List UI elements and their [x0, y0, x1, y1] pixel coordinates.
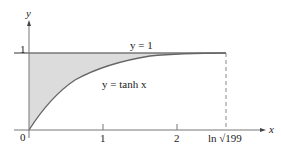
asymptote-label: y = 1 — [130, 40, 153, 51]
x-axis-arrow-icon — [260, 128, 266, 132]
curve-label: y = tanh x — [102, 79, 146, 90]
x-axis-label: x — [269, 124, 274, 135]
shaded-region — [29, 53, 226, 130]
plot-canvas — [0, 0, 281, 153]
y-tick-label-1: 1 — [20, 44, 26, 55]
x-tick-label-2: 2 — [174, 133, 180, 144]
y-axis-label: y — [26, 8, 31, 19]
tanh-area-figure: y x 0 1 1 2 ln √199 y = tanh x y = 1 — [0, 0, 281, 153]
origin-label: 0 — [20, 132, 26, 143]
endpoint-label: ln √199 — [208, 133, 242, 144]
y-axis-arrow-icon — [27, 20, 31, 26]
x-tick-label-1: 1 — [100, 133, 106, 144]
